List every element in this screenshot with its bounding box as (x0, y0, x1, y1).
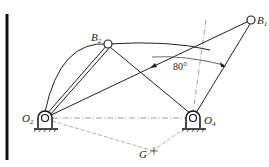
angle-label: 80° (173, 61, 187, 72)
label-o2: O2 (22, 112, 34, 126)
joint-b2 (104, 40, 112, 48)
pivot-o4 (182, 111, 206, 132)
angle-arc (152, 57, 224, 65)
label-b2: B2 (91, 31, 102, 45)
label-g: G (139, 148, 147, 160)
arrow-left-icon (150, 63, 157, 68)
label-b1: B1 (257, 14, 267, 28)
coupler-arc (45, 43, 210, 112)
link-o2-b2-b (49, 46, 111, 116)
point-g-marker (150, 147, 158, 155)
o2-g-line (52, 121, 154, 151)
bisector-line (193, 20, 206, 112)
label-o4: O4 (204, 114, 216, 128)
joint-b1 (247, 16, 255, 24)
linkage-diagram: 80° O2 O4 B2 B1 G (0, 0, 269, 167)
link-b1-o4 (196, 24, 250, 113)
